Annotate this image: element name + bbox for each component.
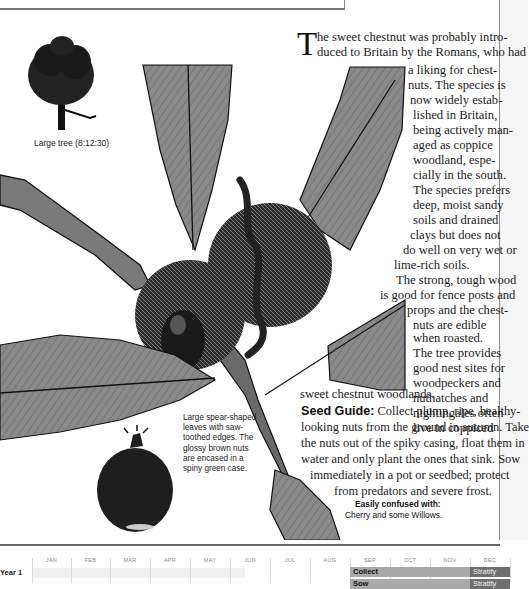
easily-confused-box: Easily confused with: Cherry and some Wi… (345, 499, 442, 520)
bottom-frame-rule (0, 544, 500, 546)
caption-line: glossy brown nuts (183, 444, 278, 454)
seed-guide-line: from predators and severe frost. (334, 483, 492, 499)
caption-line: toothed edges. The (183, 433, 278, 443)
month-divider (71, 558, 72, 583)
caption-line: leaves with saw- (183, 423, 278, 433)
year-row-label: Year 1 (0, 568, 22, 577)
month-divider (150, 558, 151, 583)
month-divider (32, 558, 33, 583)
month-divider (110, 558, 111, 583)
stratify-bar: Stratify (470, 567, 510, 577)
month-header: OCT (390, 554, 430, 566)
calendar-row-background (32, 568, 245, 578)
seed-guide-line: immediately in a pot or seedbed; protect (310, 467, 510, 483)
collect-bar: Collect (350, 567, 470, 577)
caption-line: Large spear-shaped (183, 413, 278, 423)
stratify-bar: Stratify (470, 579, 510, 589)
month-header: JUN (230, 554, 270, 566)
month-header: APR (150, 554, 190, 566)
month-header: SEP (350, 554, 390, 566)
seed-guide-line: Collect plump, ripe, healthy- (378, 404, 521, 418)
confused-value: Cherry and some Willows. (345, 510, 442, 521)
month-header: JAN (32, 554, 71, 566)
month-header: NOV (430, 554, 470, 566)
month-header: MAY (190, 554, 230, 566)
seed-guide-heading: Seed Guide: (301, 404, 374, 418)
month-divider (310, 558, 311, 583)
month-header: FEB (71, 554, 110, 566)
seed-guide-line: the nuts out of the spiky casing, float … (301, 435, 525, 451)
month-divider (190, 558, 191, 583)
month-header: JUL (270, 554, 310, 566)
month-header: MAR (110, 554, 150, 566)
month-header: DEC (470, 554, 510, 566)
seed-calendar: JAN FEB MAR APR MAY JUN JUL AUG SEP OCT … (0, 554, 528, 583)
leaf-nut-caption: Large spear-shaped leaves with saw- toot… (183, 413, 278, 474)
sow-bar: Sow (350, 579, 470, 589)
confused-title: Easily confused with: (345, 499, 442, 510)
seed-guide-line: looking nuts from the ground in autumn. … (301, 419, 529, 435)
month-divider (510, 558, 511, 583)
caption-line: are encased in a (183, 454, 278, 464)
caption-line: spiny green case. (183, 464, 278, 474)
month-divider (270, 558, 271, 583)
seed-guide-line: water and only plant the ones that sink.… (301, 451, 520, 467)
month-divider (230, 558, 231, 583)
month-header: AUG (310, 554, 350, 566)
